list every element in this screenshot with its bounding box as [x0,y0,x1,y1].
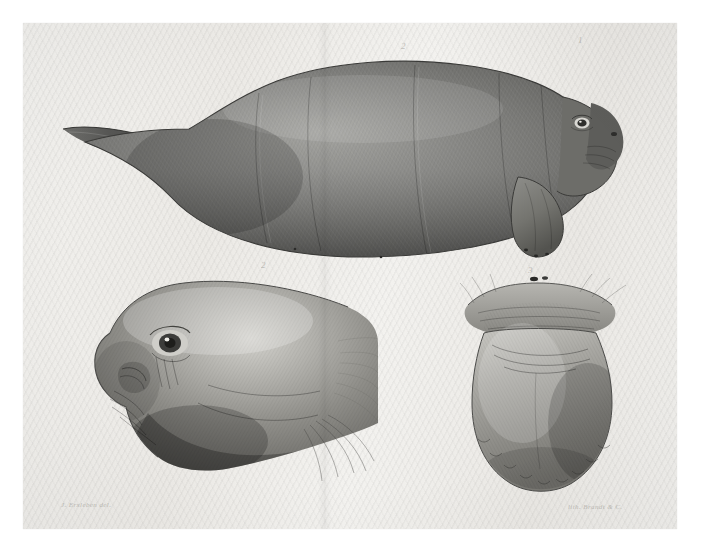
head-and-muzzle [557,97,623,196]
fig2-svg [48,273,378,503]
signature-lithographer-right: lith. Brandt & C. [568,503,622,511]
paper-sheet: 2 1 2 3 J. Erxleben del. lith. Brandt & … [23,23,677,529]
figure-1-number-left: 2 [401,41,407,51]
nostrils [530,276,548,281]
fig3-svg [448,273,648,503]
body-mark-a [294,248,297,251]
lithograph-plate: 2 1 2 3 J. Erxleben del. lith. Brandt & … [0,0,701,554]
figure-1-dugong-lateral [63,37,643,277]
body-mark-b [380,256,383,259]
figure-3-muzzle-frontal [448,273,648,503]
figure-3-number: 3 [528,265,534,275]
figure-2-head-profile [48,273,378,503]
fig1-svg [63,37,643,277]
figure-2-number: 2 [261,260,267,270]
figure-1-number-right: 1 [578,35,584,45]
head-mass [48,273,378,503]
signature-artist-left: J. Erxleben del. [61,501,111,509]
